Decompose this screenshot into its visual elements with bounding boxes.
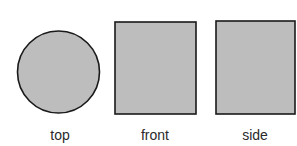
side-view-label: side <box>225 127 285 143</box>
front-view-square <box>115 22 196 114</box>
front-view-label: front <box>125 127 185 143</box>
side-view-square <box>216 21 295 114</box>
top-view-circle <box>18 31 100 113</box>
orthographic-views-diagram <box>0 0 297 146</box>
top-view-label: top <box>30 127 90 143</box>
